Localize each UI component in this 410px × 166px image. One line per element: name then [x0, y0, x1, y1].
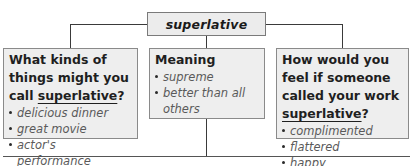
connector-drop-right [342, 24, 343, 48]
heading-punct: ? [117, 88, 124, 103]
list-item: flattered [282, 139, 403, 155]
heading-keyword: superlative [38, 88, 118, 103]
heading-keyword: superlative [282, 106, 362, 121]
heading-text: How would you feel if someone called you… [282, 52, 399, 103]
branch-heading: Meaning [155, 51, 259, 69]
item-text: delicious dinner [17, 106, 108, 120]
list-item: supreme [155, 69, 259, 85]
item-text: actor's performance [17, 138, 91, 166]
item-text: complimented [290, 124, 373, 138]
item-text: better than all others [163, 86, 245, 116]
branch-box-meaning: Meaning supreme better than all others [149, 48, 265, 119]
list-item: delicious dinner [9, 105, 132, 121]
branch-heading: How would you feel if someone called you… [282, 51, 403, 123]
connector-drop-left [70, 24, 71, 48]
connector-center-stem [206, 118, 207, 157]
heading-punct: ? [362, 106, 369, 121]
branch-heading: What kinds of things might you call supe… [9, 51, 132, 105]
item-text: supreme [163, 70, 214, 84]
branch-box-examples: What kinds of things might you call supe… [3, 48, 138, 139]
branch-item-list: delicious dinner great movie actor's per… [9, 105, 132, 166]
list-item: better than all others [155, 85, 259, 117]
item-text: happy [290, 156, 326, 166]
list-item: actor's performance [9, 137, 132, 166]
central-concept-label: superlative [166, 17, 248, 32]
list-item: complimented [282, 123, 403, 139]
item-text: flattered [290, 140, 340, 154]
item-text: great movie [17, 122, 87, 136]
central-concept-box: superlative [147, 12, 266, 36]
branch-box-feelings: How would you feel if someone called you… [276, 48, 409, 139]
list-item: great movie [9, 121, 132, 137]
branch-item-list: supreme better than all others [155, 69, 259, 117]
heading-text: Meaning [155, 52, 215, 67]
connector-drop-center [206, 35, 207, 48]
list-item: happy [282, 155, 403, 166]
branch-item-list: complimented flattered happy [282, 123, 403, 166]
